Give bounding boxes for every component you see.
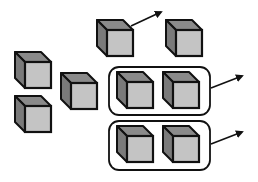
diagram-canvas <box>0 0 258 182</box>
group-lower-arrow-icon <box>211 132 242 144</box>
group-upper-cube-1 <box>117 72 153 108</box>
cube-front-face <box>25 106 51 132</box>
group-lower-cube-2 <box>163 126 199 162</box>
cube-grouping-diagram <box>0 0 258 182</box>
group-upper-arrow-icon <box>211 76 242 88</box>
cube-left-lower <box>15 96 51 132</box>
group-upper-cube-2 <box>163 72 199 108</box>
cube-front-face <box>173 82 199 108</box>
cube-front-face <box>107 30 133 56</box>
group-lower-cube-1 <box>117 126 153 162</box>
cube-front-face <box>127 82 153 108</box>
cube-front-face <box>127 136 153 162</box>
cube-front-face <box>176 30 202 56</box>
cube-front-face <box>25 62 51 88</box>
arrow-icon-cube-top-center <box>131 12 161 26</box>
cube-top-center <box>97 20 133 56</box>
cube-top-right <box>166 20 202 56</box>
cube-front-face <box>173 136 199 162</box>
cube-front-face <box>71 83 97 109</box>
cube-left-upper <box>15 52 51 88</box>
cube-left-middle <box>61 73 97 109</box>
